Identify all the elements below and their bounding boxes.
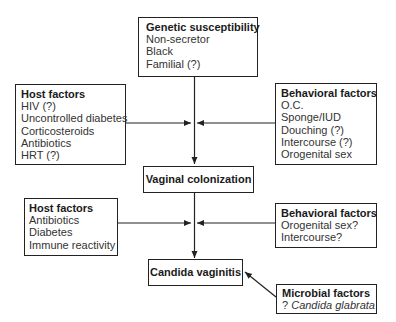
- behavioral-upper-item: Intercourse (?): [281, 136, 371, 148]
- behavioral-upper-item: Douching (?): [281, 124, 371, 136]
- microbial-factors-box: Microbial factors ? Candida glabrata: [276, 284, 377, 314]
- host-factors-lower-box: Host factors Antibiotics Diabetes Immune…: [24, 198, 118, 256]
- microbial-item-species: Candida glabrata: [291, 299, 375, 311]
- host-upper-item: Uncontrolled diabetes: [21, 112, 120, 124]
- host-upper-item: Antibiotics: [21, 137, 120, 149]
- behavioral-lower-item: Orogenital sex?: [281, 219, 371, 231]
- behavioral-upper-item: O.C.: [281, 99, 371, 111]
- candida-vaginitis-box: Candida vaginitis: [148, 259, 243, 286]
- host-upper-item: Corticosteroids: [21, 125, 120, 137]
- genetic-item: Non-secretor: [146, 33, 252, 45]
- host-factors-upper-title: Host factors: [21, 88, 120, 100]
- behavioral-upper-item: Sponge/IUD: [281, 111, 371, 123]
- candida-vaginitis-title: Candida vaginitis: [150, 266, 241, 278]
- microbial-item: ? Candida glabrata: [282, 299, 371, 311]
- genetic-item: Familial (?): [146, 58, 252, 70]
- behavioral-lower-item: Intercourse?: [281, 231, 371, 243]
- behavioral-factors-upper-title: Behavioral factors: [281, 87, 371, 99]
- microbial-item-prefix: ?: [282, 299, 291, 311]
- genetic-susceptibility-box: Genetic susceptibility Non-secretor Blac…: [138, 17, 258, 77]
- host-factors-lower-title: Host factors: [29, 202, 112, 214]
- vaginal-colonization-title: Vaginal colonization: [146, 173, 252, 185]
- behavioral-factors-lower-box: Behavioral factors Orogenital sex? Inter…: [275, 203, 377, 248]
- genetic-susceptibility-title: Genetic susceptibility: [146, 21, 252, 33]
- behavioral-factors-upper-box: Behavioral factors O.C. Sponge/IUD Douch…: [275, 83, 377, 165]
- host-lower-item: Immune reactivity: [29, 239, 112, 251]
- microbial-factors-title: Microbial factors: [282, 287, 371, 299]
- vaginal-colonization-box: Vaginal colonization: [143, 166, 254, 193]
- host-upper-item: HIV (?): [21, 100, 120, 112]
- edge-microbial-to-vaginitis: [245, 272, 276, 297]
- behavioral-factors-lower-title: Behavioral factors: [281, 207, 371, 219]
- host-lower-item: Diabetes: [29, 226, 112, 238]
- host-upper-item: HRT (?): [21, 149, 120, 161]
- host-lower-item: Antibiotics: [29, 214, 112, 226]
- host-factors-upper-box: Host factors HIV (?) Uncontrolled diabet…: [15, 84, 126, 165]
- genetic-item: Black: [146, 45, 252, 57]
- behavioral-upper-item: Orogenital sex: [281, 148, 371, 160]
